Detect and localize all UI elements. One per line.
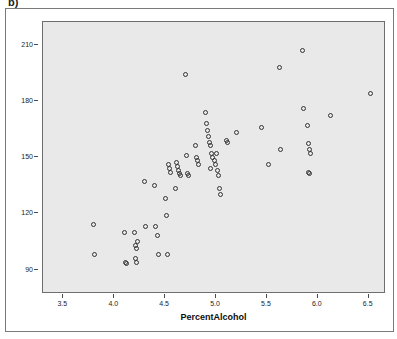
data-point: [135, 239, 140, 244]
data-point: [218, 192, 223, 197]
y-tick-label: 150: [21, 153, 33, 160]
data-point: [168, 170, 173, 175]
data-point: [183, 72, 188, 77]
data-point: [186, 173, 191, 178]
data-point: [300, 48, 305, 53]
data-point: [328, 113, 333, 118]
data-point: [213, 162, 218, 167]
x-axis-ticks: 3.54.04.55.05.56.06.5: [42, 294, 385, 310]
data-point: [143, 224, 148, 229]
x-tick-label: 4.0: [108, 300, 118, 307]
data-point: [165, 252, 170, 257]
data-point: [184, 153, 189, 158]
data-point: [368, 91, 373, 96]
data-point: [153, 224, 158, 229]
data-point: [216, 173, 221, 178]
data-point: [301, 106, 306, 111]
y-tick-label: 210: [21, 40, 33, 47]
x-tick-label: 6.0: [312, 300, 322, 307]
data-point: [164, 213, 169, 218]
data-point: [156, 252, 161, 257]
data-point: [152, 183, 157, 188]
y-tick-mark: [34, 44, 38, 45]
data-point: [214, 151, 219, 156]
data-point: [234, 130, 239, 135]
x-tick-mark: [317, 294, 318, 298]
data-point: [307, 171, 312, 176]
data-point: [124, 261, 129, 266]
x-tick-label: 5.5: [261, 300, 271, 307]
figure-page: b) Calories 90120150180210 3.54.04.55.05…: [0, 0, 397, 339]
data-point: [217, 186, 222, 191]
data-point: [92, 252, 97, 257]
y-tick-label: 120: [21, 209, 33, 216]
data-point: [204, 121, 209, 126]
y-tick-label: 180: [21, 96, 33, 103]
data-point: [91, 222, 96, 227]
data-point: [277, 65, 282, 70]
data-point: [203, 110, 208, 115]
x-axis-title: PercentAlcohol: [42, 312, 385, 322]
data-point: [134, 260, 139, 265]
data-point: [178, 173, 183, 178]
data-point: [266, 162, 271, 167]
y-tick-mark: [34, 156, 38, 157]
data-point: [122, 230, 127, 235]
data-point: [308, 151, 313, 156]
y-axis-ticks: 90120150180210: [20, 21, 38, 293]
y-tick-label: 90: [25, 265, 33, 272]
x-tick-mark: [215, 294, 216, 298]
data-point: [208, 166, 213, 171]
x-tick-label: 3.5: [57, 300, 67, 307]
data-point: [163, 196, 168, 201]
x-tick-mark: [368, 294, 369, 298]
data-point: [305, 123, 310, 128]
data-point: [259, 125, 264, 130]
data-point: [225, 140, 230, 145]
scatter-chart: Calories 90120150180210 3.54.04.55.05.56…: [0, 0, 397, 339]
data-point: [208, 143, 213, 148]
y-tick-mark: [34, 100, 38, 101]
data-point: [142, 179, 147, 184]
x-tick-mark: [113, 294, 114, 298]
data-point: [306, 141, 311, 146]
data-point: [205, 128, 210, 133]
x-tick-label: 5.0: [210, 300, 220, 307]
x-tick-mark: [164, 294, 165, 298]
plot-area: [42, 21, 385, 293]
data-point: [215, 168, 220, 173]
data-point: [132, 230, 137, 235]
x-tick-label: 6.5: [363, 300, 373, 307]
data-point: [193, 143, 198, 148]
data-point: [173, 186, 178, 191]
x-tick-label: 4.5: [159, 300, 169, 307]
y-tick-mark: [34, 212, 38, 213]
data-point: [278, 147, 283, 152]
data-point: [206, 134, 211, 139]
x-tick-mark: [266, 294, 267, 298]
data-point: [155, 233, 160, 238]
data-point: [134, 246, 139, 251]
x-tick-mark: [62, 294, 63, 298]
data-point: [196, 162, 201, 167]
y-tick-mark: [34, 269, 38, 270]
